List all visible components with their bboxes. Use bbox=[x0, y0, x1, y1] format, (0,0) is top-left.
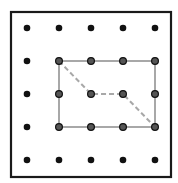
peg bbox=[88, 25, 95, 32]
peg bbox=[24, 124, 31, 131]
peg bbox=[152, 25, 159, 32]
peg bbox=[24, 58, 31, 65]
peg bbox=[88, 157, 95, 164]
peg bbox=[56, 157, 63, 164]
rectangle-band bbox=[59, 61, 155, 127]
peg bbox=[56, 25, 63, 32]
peg bbox=[88, 124, 95, 131]
peg bbox=[152, 124, 159, 131]
peg bbox=[24, 157, 31, 164]
peg bbox=[152, 91, 159, 98]
peg-grid bbox=[24, 25, 159, 164]
band-shapes bbox=[59, 61, 155, 127]
dashed-dividing-line bbox=[59, 61, 155, 127]
peg bbox=[24, 91, 31, 98]
peg bbox=[120, 124, 127, 131]
peg bbox=[56, 58, 63, 65]
peg bbox=[120, 25, 127, 32]
peg bbox=[152, 58, 159, 65]
peg bbox=[56, 91, 63, 98]
peg bbox=[56, 124, 63, 131]
peg bbox=[152, 157, 159, 164]
peg bbox=[24, 25, 31, 32]
peg bbox=[88, 91, 95, 98]
peg bbox=[120, 157, 127, 164]
geoboard-diagram bbox=[0, 0, 178, 183]
peg bbox=[120, 91, 127, 98]
geoboard-canvas bbox=[0, 0, 178, 183]
peg bbox=[88, 58, 95, 65]
peg bbox=[120, 58, 127, 65]
